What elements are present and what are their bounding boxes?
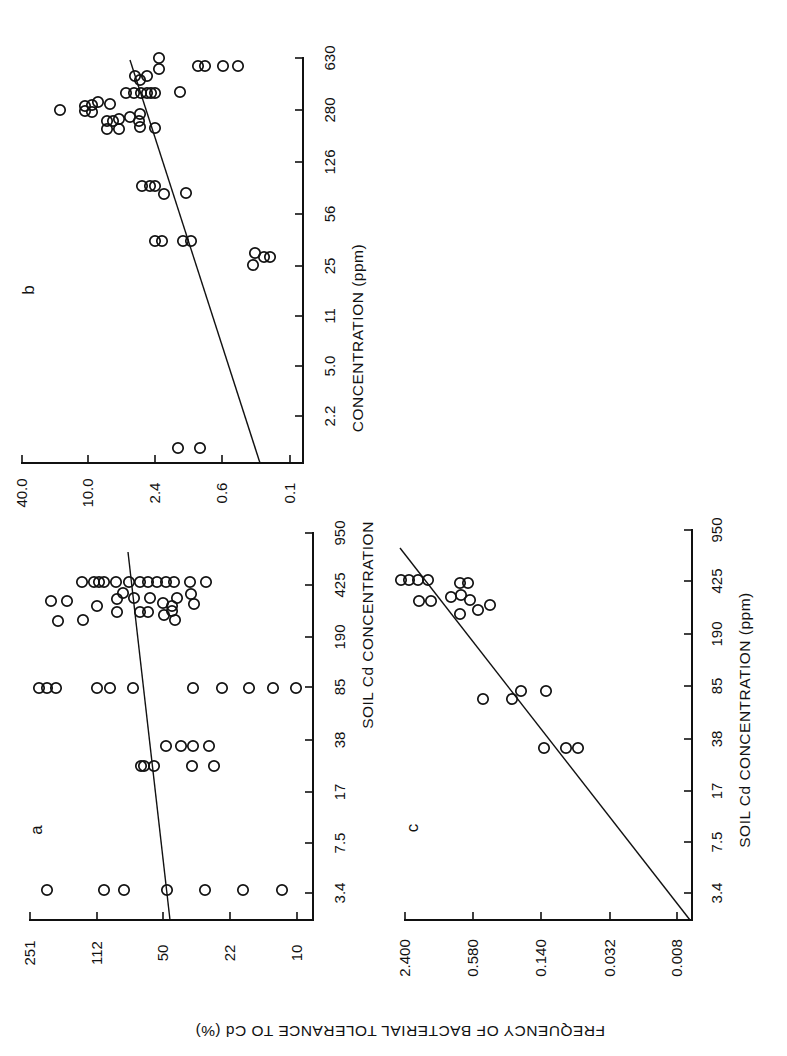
svg-text:950: 950 [708, 517, 725, 542]
data-point [135, 122, 145, 132]
data-point [277, 885, 287, 895]
panel-c-y-tick-labels: 2.400 0.580 0.140 0.032 0.008 [396, 939, 685, 977]
svg-text:17: 17 [708, 783, 725, 800]
data-point [145, 593, 155, 603]
svg-text:7.5: 7.5 [331, 833, 348, 854]
data-point [173, 443, 183, 453]
svg-text:3.4: 3.4 [708, 883, 725, 904]
svg-text:7.5: 7.5 [708, 832, 725, 853]
data-point [218, 61, 228, 71]
data-point [87, 107, 97, 117]
svg-text:190: 190 [708, 621, 725, 646]
y-axis-title: FREQUENCY OF BACTERIAL TOLERANCE TO Cd (… [195, 1023, 605, 1040]
svg-text:0.032: 0.032 [601, 939, 618, 977]
data-point [426, 596, 436, 606]
panel-a-x-title: SOIL Cd CONCENTRATION [359, 521, 376, 729]
data-point [541, 686, 551, 696]
svg-text:280: 280 [321, 97, 338, 122]
data-point [201, 577, 211, 587]
panel-b-x-title: CONCENTRATION (ppm) [349, 244, 366, 432]
svg-text:2.4: 2.4 [146, 483, 163, 504]
data-point [446, 592, 456, 602]
panel-c: 950 425 190 85 38 17 7.5 3.4 SOIL Cd CON… [396, 517, 753, 976]
data-point [42, 885, 52, 895]
data-point [105, 683, 115, 693]
data-point [119, 885, 129, 895]
svg-text:17: 17 [331, 784, 348, 801]
panel-b-regression-line [130, 60, 260, 463]
data-point [181, 188, 191, 198]
data-point [92, 683, 102, 693]
svg-text:950: 950 [331, 520, 348, 545]
data-point [157, 236, 167, 246]
panel-a-data-points [34, 577, 301, 895]
data-point [53, 616, 63, 626]
panel-b-data-points [55, 53, 275, 453]
data-point [159, 189, 169, 199]
svg-text:190: 190 [331, 624, 348, 649]
panel-b-x-ticks [295, 58, 303, 416]
data-point [516, 686, 526, 696]
data-point [189, 599, 199, 609]
data-point [118, 588, 128, 598]
panel-c-y-ticks [405, 912, 677, 920]
data-point [188, 683, 198, 693]
data-point [185, 577, 195, 587]
data-point [209, 761, 219, 771]
svg-text:85: 85 [331, 679, 348, 696]
panel-c-data-points [396, 575, 583, 753]
panel-b: 630 280 126 56 25 11 5.0 2.2 CONCENTRATI… [13, 45, 366, 507]
svg-text:0.1: 0.1 [281, 483, 298, 504]
panel-c-x-tick-labels: 950 425 190 85 38 17 7.5 3.4 [708, 517, 725, 903]
svg-text:0.580: 0.580 [464, 939, 481, 977]
data-point [539, 743, 549, 753]
svg-text:0.140: 0.140 [532, 939, 549, 977]
svg-text:126: 126 [321, 149, 338, 174]
svg-text:3.4: 3.4 [331, 883, 348, 904]
svg-text:38: 38 [708, 731, 725, 748]
data-point [507, 694, 517, 704]
data-point [473, 605, 483, 615]
data-point [99, 885, 109, 895]
svg-text:0.6: 0.6 [213, 483, 230, 504]
panel-b-x-tick-labels: 630 280 126 56 25 11 5.0 2.2 [321, 45, 338, 426]
data-point [154, 64, 164, 74]
svg-text:85: 85 [708, 678, 725, 695]
panel-a-y-tick-labels: 251 112 50 22 10 [21, 940, 305, 965]
data-point [465, 595, 475, 605]
data-point [200, 885, 210, 895]
panel-a-y-ticks [30, 912, 297, 920]
data-point [170, 615, 180, 625]
panel-a: 950 425 190 85 38 17 7.5 3.4 SOIL Cd CON… [21, 520, 376, 965]
data-point [195, 443, 205, 453]
panel-b-y-ticks [22, 455, 290, 463]
data-point [478, 694, 488, 704]
data-point [124, 577, 134, 587]
data-point [55, 105, 65, 115]
data-point [114, 114, 124, 124]
data-point [149, 761, 159, 771]
svg-text:2.2: 2.2 [321, 406, 338, 427]
data-point [217, 683, 227, 693]
panel-a-x-tick-labels: 950 425 190 85 38 17 7.5 3.4 [331, 520, 348, 903]
panel-c-x-ticks [684, 530, 692, 893]
data-point [128, 683, 138, 693]
svg-text:251: 251 [21, 940, 38, 965]
data-point [238, 885, 248, 895]
data-point [172, 593, 182, 603]
data-point [112, 594, 122, 604]
panel-b-label: b [19, 285, 38, 294]
svg-text:2.400: 2.400 [396, 939, 413, 977]
data-point [176, 741, 186, 751]
figure-canvas: 630 280 126 56 25 11 5.0 2.2 CONCENTRATI… [0, 0, 787, 1056]
panel-c-x-title: SOIL Cd CONCENTRATION (ppm) [736, 592, 753, 848]
svg-text:425: 425 [708, 568, 725, 593]
data-point [114, 124, 124, 134]
data-point [175, 87, 185, 97]
panel-a-label: a [27, 825, 46, 835]
data-point [455, 609, 465, 619]
data-point [46, 596, 56, 606]
svg-text:630: 630 [321, 45, 338, 70]
data-point [161, 741, 171, 751]
svg-text:425: 425 [331, 572, 348, 597]
